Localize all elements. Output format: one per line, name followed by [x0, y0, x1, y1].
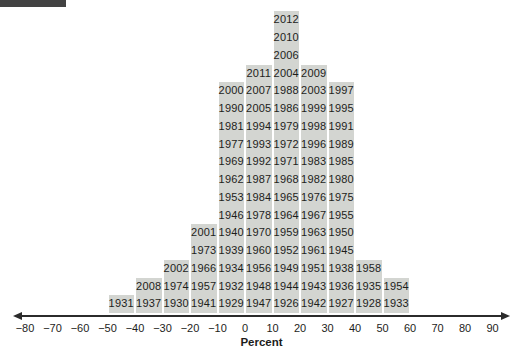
year-cell: 1943 [301, 278, 327, 296]
year-cell: 1991 [329, 118, 355, 136]
year-cell: 2005 [246, 100, 272, 118]
year-cell: 1930 [164, 295, 190, 313]
year-cell: 1940 [219, 224, 245, 242]
year-cell: 1973 [191, 242, 217, 260]
year-cell: 1972 [274, 136, 300, 154]
year-cell: 2011 [246, 65, 272, 83]
year-cell: 2007 [246, 82, 272, 100]
year-cell: 1934 [219, 260, 245, 278]
year-cell: 1999 [301, 100, 327, 118]
year-cell: 2002 [164, 260, 190, 278]
x-tick-label: −10 [208, 322, 227, 334]
year-cell: 1955 [329, 207, 355, 225]
year-cell: 1995 [329, 100, 355, 118]
year-cell: 1957 [191, 278, 217, 296]
year-cell: 1975 [329, 189, 355, 207]
year-cell: 1937 [136, 295, 162, 313]
page-accent-bar [0, 0, 66, 7]
histogram-column: 1929193219341939194019461953196219691977… [219, 82, 245, 313]
x-tick-label: −40 [126, 322, 145, 334]
x-tick-label: −50 [98, 322, 117, 334]
x-tick-label: −30 [153, 322, 172, 334]
year-cell: 1992 [246, 153, 272, 171]
x-tick-label: −80 [16, 322, 35, 334]
year-cell: 1989 [329, 136, 355, 154]
histogram-column: 1947194819561960197019781984198719921993… [246, 65, 272, 314]
year-cell: 2000 [219, 82, 245, 100]
year-cell: 1970 [246, 224, 272, 242]
x-tick-label: 70 [431, 322, 443, 334]
x-tick-label: 20 [294, 322, 306, 334]
year-cell: 1978 [246, 207, 272, 225]
histogram-column: 1926194419491952195919641965196819711972… [274, 11, 300, 313]
year-cell: 1949 [274, 260, 300, 278]
year-cell: 1945 [329, 242, 355, 260]
year-cell: 1976 [301, 189, 327, 207]
x-tick-label: 10 [266, 322, 278, 334]
year-cell: 2009 [301, 65, 327, 83]
histogram-column: 193019742002 [164, 260, 190, 313]
year-cell: 1993 [246, 136, 272, 154]
year-cell: 1931 [109, 295, 135, 313]
year-cell: 1963 [301, 224, 327, 242]
year-cell: 1953 [219, 189, 245, 207]
x-tick-label: 0 [242, 322, 248, 334]
year-cell: 1968 [274, 171, 300, 189]
year-cell: 1948 [246, 278, 272, 296]
year-cell: 1980 [329, 171, 355, 189]
histogram-column: 1927193619381945195019551975198019851989… [329, 82, 355, 313]
x-tick-label: 90 [486, 322, 498, 334]
year-cell: 1935 [356, 278, 382, 296]
histogram-column: 192819351958 [356, 260, 382, 313]
year-cell: 1932 [219, 278, 245, 296]
year-cell: 1951 [301, 260, 327, 278]
x-tick-label: −20 [181, 322, 200, 334]
x-tick-label: −70 [43, 322, 62, 334]
x-axis-title: Percent [0, 336, 523, 348]
year-cell: 2010 [274, 29, 300, 47]
year-cell: 1942 [301, 295, 327, 313]
year-cell: 1986 [274, 100, 300, 118]
year-cell: 2001 [191, 224, 217, 242]
x-tick-label: −60 [71, 322, 90, 334]
year-cell: 2003 [301, 82, 327, 100]
axis-arrow-right-icon [501, 312, 510, 320]
year-cell: 1971 [274, 153, 300, 171]
year-cell: 1952 [274, 242, 300, 260]
year-cell: 1981 [219, 118, 245, 136]
year-cell: 2006 [274, 47, 300, 65]
year-cell: 1961 [301, 242, 327, 260]
year-cell: 1987 [246, 171, 272, 189]
year-cell: 1944 [274, 278, 300, 296]
year-cell: 1974 [164, 278, 190, 296]
x-tick-label: 60 [404, 322, 416, 334]
year-cell: 1927 [329, 295, 355, 313]
year-cell: 1985 [329, 153, 355, 171]
year-cell: 1997 [329, 82, 355, 100]
x-tick-label: 40 [349, 322, 361, 334]
year-cell: 1960 [246, 242, 272, 260]
year-cell: 1947 [246, 295, 272, 313]
year-cell: 1982 [301, 171, 327, 189]
year-cell: 1998 [301, 118, 327, 136]
year-cell: 1928 [356, 295, 382, 313]
year-cell: 1996 [301, 136, 327, 154]
year-cell: 1956 [246, 260, 272, 278]
year-cell: 1941 [191, 295, 217, 313]
year-cell: 1929 [219, 295, 245, 313]
year-cell: 1990 [219, 100, 245, 118]
year-cell: 1988 [274, 82, 300, 100]
histogram-chart: 1931193720081930197420021941195719661973… [0, 0, 523, 359]
year-cell: 1994 [246, 118, 272, 136]
year-cell: 1977 [219, 136, 245, 154]
year-cell: 1950 [329, 224, 355, 242]
x-tick-label: 50 [376, 322, 388, 334]
year-cell: 1979 [274, 118, 300, 136]
year-cell: 1946 [219, 207, 245, 225]
year-cell: 1962 [219, 171, 245, 189]
year-cell: 1936 [329, 278, 355, 296]
year-cell: 1926 [274, 295, 300, 313]
year-cell: 1964 [274, 207, 300, 225]
year-cell: 2008 [136, 278, 162, 296]
year-cell: 1967 [301, 207, 327, 225]
